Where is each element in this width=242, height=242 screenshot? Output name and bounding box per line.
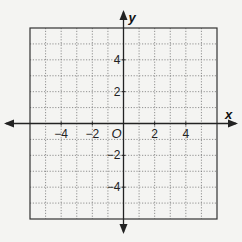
x-tick-label: −2 — [85, 127, 99, 141]
y-tick-label: 4 — [114, 53, 121, 67]
x-axis-label: x — [224, 107, 233, 122]
y-axis-label: y — [128, 10, 137, 25]
arrow-down-icon — [120, 224, 128, 234]
x-tick-label: 4 — [182, 127, 189, 141]
origin-label: O — [112, 126, 122, 141]
x-tick-label: 2 — [151, 127, 158, 141]
x-tick-label: −4 — [54, 127, 68, 141]
y-tick-label: −2 — [107, 148, 121, 162]
arrow-up-icon — [120, 10, 128, 20]
arrow-left-icon — [4, 120, 14, 128]
y-tick-label: 2 — [114, 85, 121, 99]
coordinate-plane: −4−22442−2−4 x y O — [0, 0, 242, 242]
y-tick-label: −4 — [107, 180, 121, 194]
